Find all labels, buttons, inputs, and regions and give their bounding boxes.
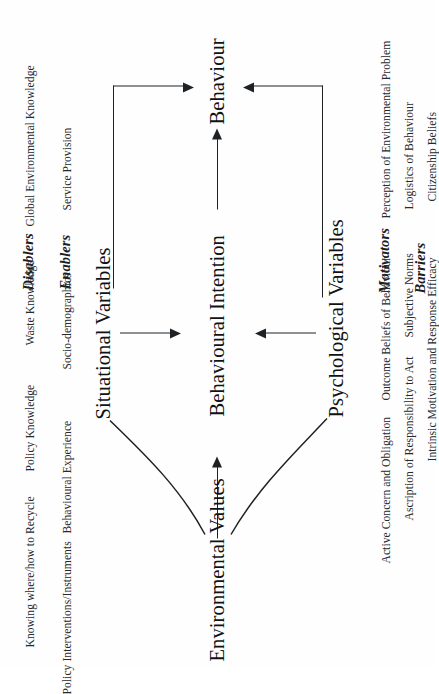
leaf-behavioural-experience: Behavioural Experience — [62, 420, 74, 533]
node-behaviour: Behaviour — [207, 38, 229, 124]
leaf-service-provision: Service Provision — [62, 127, 74, 210]
leaf-citizenship-beliefs: Citizenship Beliefs — [427, 112, 439, 202]
leaf-outcome-beliefs-of-behaviour: Outcome Beliefs of Behaviour — [381, 257, 393, 400]
node-environmental-values: Environmental Values — [207, 478, 229, 661]
leaf-intrinsic-motivation-and-response-efficacy: Intrinsic Motivation and Response Effica… — [427, 257, 439, 461]
leaf-global-environmental-knowledge: Global Environmental Knowledge — [25, 65, 37, 226]
edge-values-to-psychological-curve — [231, 418, 327, 534]
node-behavioural-intention: Behavioural Intention — [207, 235, 229, 416]
leaf-perception-of-environmental-problem: Perception of Environmental Problem — [381, 40, 393, 218]
leaf-socio-demographics: Socio-demographics — [62, 273, 74, 369]
leaf-subjective-norms: Subjective Norms — [404, 253, 416, 337]
leaf-policy-knowledge: Policy Knowledge — [25, 384, 37, 471]
leaf-knowing-where-how-to-recycle: Knowing where/how to Recycle — [25, 496, 37, 647]
leaf-ascription-of-responsibility-to-act: Ascription of Responsibility to Act — [404, 356, 416, 520]
leaf-logistics-of-behaviour: Logistics of Behaviour — [404, 102, 416, 209]
leaf-policy-interventions-instruments: Policy Interventions/Instruments — [62, 541, 74, 694]
leaf-active-concern-and-obligation: Active Concern and Obligation — [381, 416, 393, 563]
edge-values-to-situational-curve — [110, 420, 205, 534]
node-psychological-variables: Psychological Variables — [326, 219, 348, 417]
node-situational-variables: Situational Variables — [93, 247, 115, 419]
leaf-waste-knowledge: Waste Knowledge — [25, 260, 37, 345]
